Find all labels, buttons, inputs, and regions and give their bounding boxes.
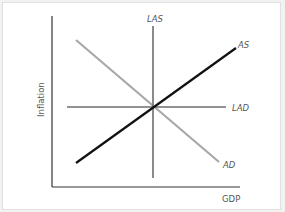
as-label: AS — [237, 40, 250, 50]
ad-curve — [76, 40, 219, 162]
x-axis-label: GDP — [222, 194, 240, 204]
as-curve — [76, 48, 236, 163]
lad-label: LAD — [232, 103, 250, 113]
ad-label: AD — [222, 160, 236, 170]
las-label: LAS — [147, 14, 164, 24]
y-axis-label: Inflation — [36, 82, 46, 117]
ad-as-diagram: LAS LAD AS AD GDP Inflation — [0, 0, 285, 212]
